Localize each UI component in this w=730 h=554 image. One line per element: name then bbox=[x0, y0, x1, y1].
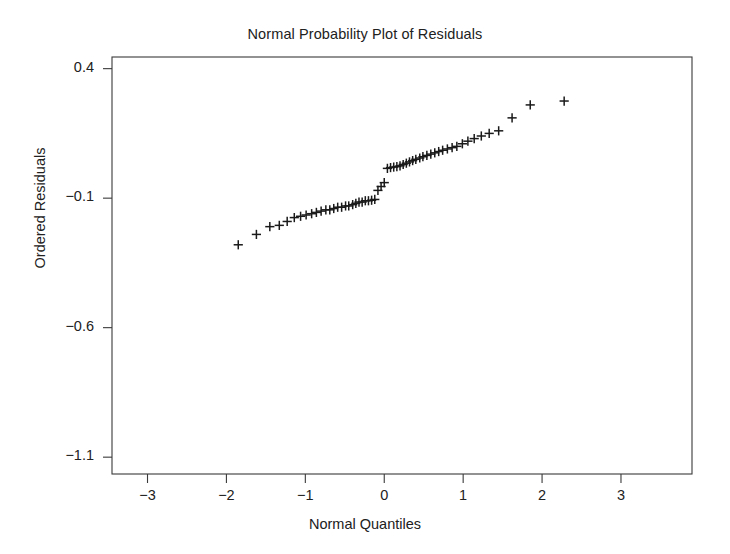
data-point bbox=[275, 221, 284, 230]
y-axis-ticks bbox=[103, 69, 112, 458]
x-tick-label: 1 bbox=[443, 487, 483, 503]
data-point bbox=[560, 96, 569, 105]
y-tick-label: −0.1 bbox=[34, 188, 94, 204]
data-point bbox=[443, 144, 452, 153]
data-point bbox=[234, 240, 243, 249]
data-point bbox=[526, 100, 535, 109]
normal-probability-plot-figure: Normal Probability Plot of Residuals Ord… bbox=[0, 0, 730, 554]
x-tick-label: 0 bbox=[364, 487, 404, 503]
x-axis-ticks bbox=[148, 474, 621, 483]
data-point bbox=[265, 222, 274, 231]
y-tick-label: −1.1 bbox=[34, 447, 94, 463]
x-tick-label: 3 bbox=[601, 487, 641, 503]
data-point bbox=[307, 209, 316, 218]
x-tick-label: −1 bbox=[285, 487, 325, 503]
y-tick-label: −0.6 bbox=[34, 318, 94, 334]
data-point bbox=[485, 129, 494, 138]
data-point bbox=[252, 230, 261, 239]
x-tick-label: −3 bbox=[128, 487, 168, 503]
x-tick-label: −2 bbox=[206, 487, 246, 503]
data-point bbox=[296, 212, 305, 221]
data-point bbox=[312, 208, 321, 217]
plot-frame bbox=[112, 57, 692, 474]
x-tick-label: 2 bbox=[522, 487, 562, 503]
data-point bbox=[494, 126, 503, 135]
data-point bbox=[302, 210, 311, 219]
data-point bbox=[448, 143, 457, 152]
data-point bbox=[507, 113, 516, 122]
plot-area bbox=[0, 0, 730, 554]
y-tick-label: 0.4 bbox=[34, 59, 94, 75]
data-point bbox=[317, 207, 326, 216]
data-point-markers bbox=[234, 96, 569, 249]
